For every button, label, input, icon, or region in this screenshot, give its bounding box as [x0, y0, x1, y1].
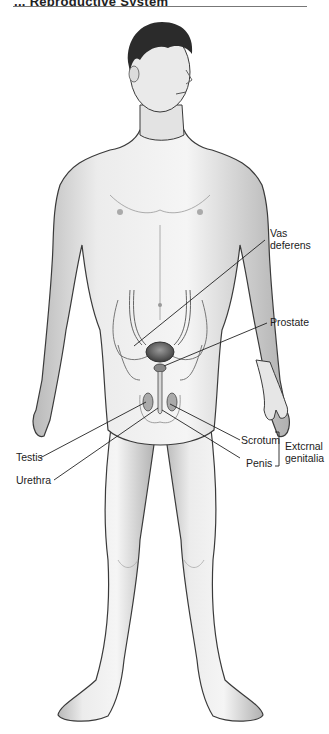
label-testis: Testis: [16, 451, 43, 463]
label-scrotum: Scrotum: [241, 434, 280, 446]
label-external-2: genitalia: [285, 452, 324, 464]
prostate-organ: [154, 364, 166, 372]
label-urethra: Urethra: [16, 474, 51, 486]
bladder: [146, 342, 174, 362]
legs: [58, 420, 263, 721]
label-penis: Penis: [246, 457, 272, 469]
label-vas-deferens-1: Vas: [270, 227, 287, 239]
label-prostate: Prostate: [270, 316, 309, 328]
label-vas-deferens-2: deferens: [270, 239, 311, 251]
hand-right: [256, 360, 288, 420]
head: [128, 22, 192, 112]
penis-organ: [158, 372, 162, 414]
testis-right: [167, 393, 177, 411]
testis-left: [143, 393, 153, 411]
label-external-1: Extcrnal: [285, 440, 323, 452]
